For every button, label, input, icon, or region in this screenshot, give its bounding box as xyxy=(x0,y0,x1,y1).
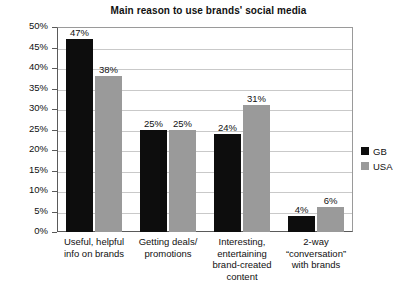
y-axis-tick-label: 20% xyxy=(29,143,48,154)
bar-value-label: 38% xyxy=(99,64,118,75)
chart-title: Main reason to use brands' social media xyxy=(0,5,417,16)
x-axis-category-label: Getting deals/promotions xyxy=(131,236,205,259)
bar-usa[interactable]: 31% xyxy=(243,105,270,232)
y-axis-tick-label: 40% xyxy=(29,61,48,72)
legend-swatch xyxy=(361,147,369,155)
bar-usa[interactable]: 38% xyxy=(95,76,122,232)
x-axis-category-label: Useful, helpfulinfo on brands xyxy=(57,236,131,259)
bar-value-label: 6% xyxy=(324,195,338,206)
y-axis-tick-label: 5% xyxy=(34,205,48,216)
y-axis-tick-label: 25% xyxy=(29,123,48,134)
bar-value-label: 31% xyxy=(247,93,266,104)
bar-value-label: 24% xyxy=(218,122,237,133)
bar-group: 47%38% xyxy=(57,27,131,232)
y-axis-tick-label: 0% xyxy=(34,225,48,236)
legend-item-usa[interactable]: USA xyxy=(361,160,415,172)
y-axis: 0%5%10%15%20%25%30%35%40%45%50% xyxy=(0,27,57,233)
bar-value-label: 25% xyxy=(173,118,192,129)
bar-usa[interactable]: 25% xyxy=(169,130,196,233)
bar-gb[interactable]: 47% xyxy=(66,39,93,232)
legend-item-gb[interactable]: GB xyxy=(361,145,415,157)
bar-chart: Main reason to use brands' social media … xyxy=(0,0,417,300)
bar-gb[interactable]: 4% xyxy=(288,216,315,232)
y-axis-tick-label: 10% xyxy=(29,184,48,195)
bar-value-label: 4% xyxy=(295,204,309,215)
legend-swatch xyxy=(361,162,369,170)
chart-legend: GBUSA xyxy=(361,145,415,175)
x-axis-category-label: 2-way“conversation”with brands xyxy=(279,236,353,271)
y-axis-tick-label: 30% xyxy=(29,102,48,113)
bar-value-label: 25% xyxy=(144,118,163,129)
y-axis-tick-label: 45% xyxy=(29,41,48,52)
y-axis-tick-label: 35% xyxy=(29,82,48,93)
x-axis-category-label: Interesting,entertainingbrand-createdcon… xyxy=(205,236,279,282)
y-axis-tick-label: 50% xyxy=(29,20,48,31)
bar-group: 25%25% xyxy=(131,27,205,232)
y-axis-tick-mark xyxy=(52,232,57,233)
x-axis-labels: Useful, helpfulinfo on brandsGetting dea… xyxy=(57,236,353,296)
y-axis-tick-label: 15% xyxy=(29,164,48,175)
bar-group: 4%6% xyxy=(279,27,353,232)
bar-gb[interactable]: 24% xyxy=(214,134,241,232)
bars-layer: 47%38%25%25%24%31%4%6% xyxy=(57,27,353,232)
legend-label: GB xyxy=(373,146,387,157)
bar-gb[interactable]: 25% xyxy=(140,130,167,233)
bar-value-label: 47% xyxy=(70,27,89,38)
bar-group: 24%31% xyxy=(205,27,279,232)
bar-usa[interactable]: 6% xyxy=(317,207,344,232)
legend-label: USA xyxy=(373,161,393,172)
